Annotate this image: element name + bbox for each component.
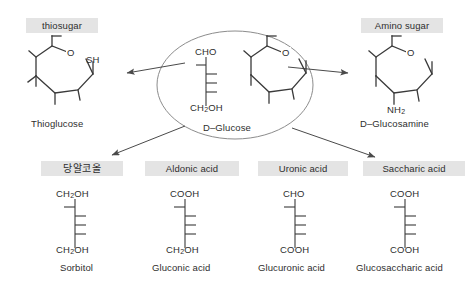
fischer-bonds-glucuronic-acid — [284, 199, 306, 248]
fischer-bottom-label-glucosaccharic-acid: COOH — [390, 244, 419, 256]
center-label-d-glucose: D–Glucose — [203, 122, 251, 134]
fischer-bonds-gluconic-acid — [174, 199, 196, 248]
caption-thioglucose: Thioglucose — [31, 118, 83, 130]
nh2-text: NH2 — [387, 104, 405, 115]
fischer-bottom-label-gluconic-acid: CH2OH — [166, 244, 199, 258]
chip-saccharic-acid: Saccharic acid — [363, 161, 465, 176]
fischer-top-label-sorbitol: CH2OH — [56, 188, 89, 202]
caption-glucosaccharic-acid: Glucosaccharic acid — [356, 262, 443, 274]
ring-oxygen-label-thioglucose: O — [66, 47, 76, 59]
chip-uronic-acid: Uronic acid — [258, 161, 348, 176]
substituent-label-thioglucose: SH — [86, 54, 100, 66]
chip-aldonic-acid: Aldonic acid — [145, 161, 239, 176]
arrow-to-sugar-alcohol — [112, 126, 185, 155]
fischer-bottom-label-sorbitol: CH2OH — [56, 244, 89, 258]
fischer-top-label-d-glucose: CHO — [195, 46, 217, 58]
caption-gluconic-acid: Gluconic acid — [152, 262, 210, 274]
fischer-bottom-label-d-glucose: CH2OH — [190, 102, 223, 116]
fischer-bonds-sorbitol — [64, 199, 86, 248]
arrow-to-amino-sugar — [288, 67, 348, 73]
fischer-bonds-d-glucose — [196, 57, 217, 106]
chip-amino-sugar: Amino sugar — [361, 18, 443, 33]
haworth-ring-thioglucose — [28, 36, 93, 104]
arrow-to-saccharic-acid — [292, 128, 375, 157]
haworth-ring-d-glucosamine — [369, 36, 432, 104]
substituent-label-d-glucosamine: NH2 — [387, 104, 405, 118]
ring-oxygen-label-d-glucosamine: O — [406, 47, 416, 59]
fischer-bonds-glucosaccharic-acid — [394, 199, 416, 248]
caption-glucuronic-acid: Glucuronic acid — [258, 262, 325, 274]
haworth-ring-d-glucose — [244, 36, 306, 103]
fischer-bottom-label-glucuronic-acid: COOH — [280, 244, 309, 256]
caption-sorbitol: Sorbitol — [60, 262, 93, 274]
arrow-to-thiosugar — [127, 63, 185, 73]
chip-sugar-alcohol: 당알코올 — [41, 161, 123, 176]
caption-d-glucosamine: D–Glucosamine — [360, 118, 429, 130]
ring-oxygen-label-d-glucose: O — [281, 47, 291, 59]
fischer-top-label-glucosaccharic-acid: COOH — [390, 188, 419, 200]
fischer-top-label-gluconic-acid: COOH — [170, 188, 199, 200]
fischer-top-label-glucuronic-acid: CHO — [283, 188, 305, 200]
chip-thiosugar: thiosugar — [26, 18, 98, 33]
